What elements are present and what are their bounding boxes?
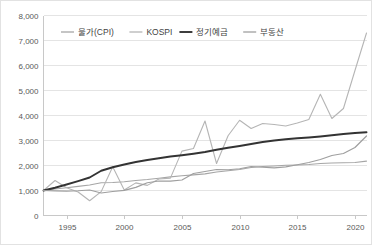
x-axis-tick-label: 2020 bbox=[347, 223, 365, 232]
y-axis-tick-label: 3,000 bbox=[18, 137, 39, 146]
y-axis-tick-labels: 01,0002,0003,0004,0005,0006,0007,0008,00… bbox=[18, 12, 39, 221]
y-axis-tick-label: 5,000 bbox=[18, 87, 39, 96]
legend-label-정기예금[interactable]: 정기예금 bbox=[196, 27, 228, 37]
line-chart-container: 01,0002,0003,0004,0005,0006,0007,0008,00… bbox=[0, 0, 372, 245]
x-axis-tick-label: 2000 bbox=[116, 223, 134, 232]
y-axis-tick-label: 1,000 bbox=[18, 187, 39, 196]
gridlines bbox=[44, 16, 367, 191]
legend-label-부동산[interactable]: 부동산 bbox=[260, 27, 284, 37]
x-axis-tick-labels: 199520002005201020152020 bbox=[59, 216, 365, 232]
y-axis-tick-label: 8,000 bbox=[18, 12, 39, 21]
y-axis-tick-label: 2,000 bbox=[18, 162, 39, 171]
y-axis-tick-label: 4,000 bbox=[18, 112, 39, 121]
y-axis-tick-label: 6,000 bbox=[18, 62, 39, 71]
y-axis-tick-label: 0 bbox=[34, 212, 39, 221]
x-axis-tick-label: 2005 bbox=[174, 223, 192, 232]
x-axis-tick-label: 1995 bbox=[59, 223, 77, 232]
x-axis-tick-label: 2015 bbox=[289, 223, 307, 232]
chart-legend: 물가(CPI)KOSPI정기예금부동산 bbox=[61, 27, 284, 37]
y-axis-tick-label: 7,000 bbox=[18, 37, 39, 46]
legend-label-KOSPI[interactable]: KOSPI bbox=[146, 27, 172, 37]
chart-plot-area: 01,0002,0003,0004,0005,0006,0007,0008,00… bbox=[1, 1, 372, 245]
series-group bbox=[44, 33, 367, 201]
x-axis-tick-label: 2010 bbox=[232, 223, 250, 232]
legend-label-물가(CPI)[interactable]: 물가(CPI) bbox=[78, 27, 114, 37]
